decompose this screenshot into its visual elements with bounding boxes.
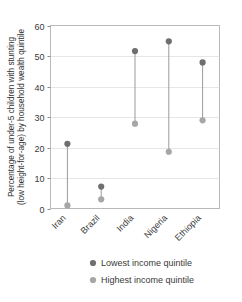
y-axis-title-line2: (low height-for-age) by household wealth… — [17, 28, 26, 205]
data-point-marker[interactable] — [64, 202, 70, 208]
legend-marker-icon — [90, 260, 96, 266]
x-category-label: Brazil — [79, 213, 102, 236]
data-point-marker[interactable] — [166, 38, 172, 44]
y-tick-label: 0 — [39, 205, 44, 215]
legend-label: Lowest income quintile — [101, 258, 192, 268]
data-point-marker[interactable] — [98, 183, 104, 189]
x-axis-category-labels: IranBrazilIndiaNigeriaEthiopia — [50, 213, 203, 243]
y-tick-label: 60 — [34, 22, 44, 32]
data-point-marker[interactable] — [98, 196, 104, 202]
data-point-marker[interactable] — [200, 59, 206, 65]
x-category-label: Nigeria — [142, 213, 169, 240]
data-point-marker[interactable] — [132, 48, 138, 54]
data-point-marker[interactable] — [166, 149, 172, 155]
y-tick-label: 40 — [34, 83, 44, 93]
y-tick-label: 10 — [34, 174, 44, 184]
legend-label: Highest income quintile — [101, 275, 194, 285]
legend-marker-icon — [90, 277, 96, 283]
y-tick-label: 50 — [34, 52, 44, 62]
x-category-label: India — [115, 213, 136, 234]
y-tick-label: 30 — [34, 113, 44, 123]
y-axis-title-line1: Percentage of under-5 children with stun… — [7, 36, 16, 197]
x-category-label: Iran — [50, 213, 68, 231]
chart-figure: 0102030405060 IranBrazilIndiaNigeriaEthi… — [0, 0, 242, 302]
dumbbell-chart: 0102030405060 IranBrazilIndiaNigeriaEthi… — [0, 0, 242, 302]
y-axis-tick-labels: 0102030405060 — [34, 22, 44, 215]
x-category-label: Ethiopia — [173, 213, 203, 243]
y-tick-label: 20 — [34, 144, 44, 154]
data-point-marker[interactable] — [200, 117, 206, 123]
chart-legend: Lowest income quintileHighest income qui… — [90, 258, 194, 285]
data-point-marker[interactable] — [132, 121, 138, 127]
data-point-marker[interactable] — [64, 141, 70, 147]
